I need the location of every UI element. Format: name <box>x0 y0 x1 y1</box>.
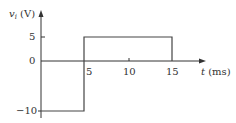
x-axis-unit: (ms) <box>205 66 231 77</box>
y-tick-label-0: 0 <box>29 56 35 66</box>
y-tick-label-5: 5 <box>29 32 35 42</box>
x-axis-arrow-icon <box>199 59 206 64</box>
x-tick-label-10: 10 <box>123 67 136 77</box>
x-tick-label-15: 15 <box>166 67 179 77</box>
y-axis-label: vi (V) <box>9 9 35 21</box>
x-tick-label-5: 5 <box>86 67 92 77</box>
waveform-line <box>41 37 172 111</box>
y-axis-unit: (V) <box>17 8 35 19</box>
y-tick-label-neg10: −10 <box>16 106 37 116</box>
x-axis-label: t (ms) <box>201 67 231 77</box>
y-axis-arrow-icon <box>39 10 44 17</box>
